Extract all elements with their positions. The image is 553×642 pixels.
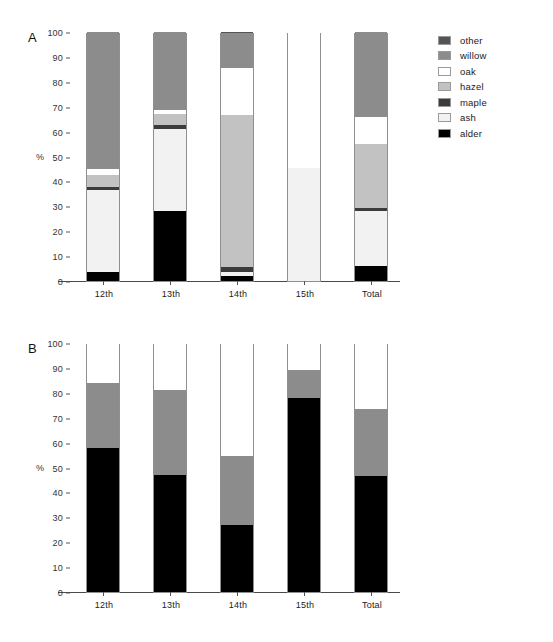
y-tick-label: 80: [53, 78, 72, 88]
y-tick-label: 70: [53, 414, 72, 424]
segment-ash[interactable]: [221, 272, 253, 276]
segment-summer[interactable]: [355, 343, 387, 409]
segment-autumn-winter[interactable]: [87, 448, 119, 592]
segment-oak[interactable]: [87, 169, 119, 175]
bar-13th[interactable]: 13th: [153, 33, 187, 282]
segment-spring[interactable]: [87, 383, 119, 448]
bar-12th[interactable]: 12th: [86, 33, 120, 282]
segment-ash[interactable]: [355, 211, 387, 266]
segment-other[interactable]: [221, 32, 253, 33]
y-tick-mark: [66, 593, 70, 594]
segment-spring[interactable]: [355, 409, 387, 476]
segment-willow[interactable]: [355, 32, 387, 117]
segment-summer[interactable]: [87, 343, 119, 383]
y-tick-label: 90: [53, 364, 72, 374]
bar-15th[interactable]: 15th: [287, 344, 321, 593]
segment-maple[interactable]: [355, 208, 387, 212]
segment-hazel[interactable]: [221, 115, 253, 267]
segment-maple[interactable]: [87, 187, 119, 190]
segment-oak[interactable]: [154, 110, 186, 114]
panel-a-legend: otherwillowoakhazelmapleashalder: [438, 33, 487, 142]
x-tick-mark: [371, 592, 372, 596]
y-tick-label: 60: [53, 128, 72, 138]
bar-segments: [288, 34, 320, 281]
legend-item-label: hazel: [460, 81, 484, 92]
segment-alder[interactable]: [154, 211, 186, 281]
segment-hazel[interactable]: [87, 175, 119, 187]
panel-a-letter: A: [28, 30, 37, 45]
legend-item-label: willow: [460, 50, 487, 61]
legend-item-label: maple: [460, 97, 487, 108]
x-tick-label-13th: 13th: [141, 289, 201, 299]
y-tick-mark: [66, 157, 70, 158]
segment-summer[interactable]: [154, 343, 186, 390]
segment-autumn-winter[interactable]: [355, 476, 387, 592]
segment-alder[interactable]: [87, 272, 119, 281]
panel-a-y-axis-label: %: [36, 152, 44, 162]
segment-oak[interactable]: [221, 68, 253, 115]
panel-b-letter: B: [28, 341, 37, 356]
bar-12th[interactable]: 12th: [86, 344, 120, 593]
bar-15th[interactable]: 15th: [287, 33, 321, 282]
legend-item-willow[interactable]: willow: [438, 49, 487, 63]
segment-spring[interactable]: [154, 390, 186, 475]
segment-willow[interactable]: [221, 33, 253, 68]
segment-ash[interactable]: [87, 190, 119, 272]
x-tick-label-13th: 13th: [141, 600, 201, 610]
y-tick-label: 30: [53, 202, 72, 212]
segment-willow[interactable]: [154, 32, 186, 110]
segment-hazel[interactable]: [154, 114, 186, 125]
legend-swatch-icon: [438, 67, 451, 76]
y-tick-mark: [66, 282, 70, 283]
y-tick-label: 10: [53, 252, 72, 262]
x-tick-label-14th: 14th: [208, 289, 268, 299]
x-tick-mark: [237, 281, 238, 285]
legend-item-label: other: [460, 35, 483, 46]
bar-14th[interactable]: 14th: [220, 344, 254, 593]
bar-segments: [87, 34, 119, 281]
bar-total[interactable]: Total: [354, 344, 388, 593]
segment-autumn-winter[interactable]: [154, 475, 186, 592]
y-tick-mark: [66, 344, 70, 345]
y-tick-mark: [66, 132, 70, 133]
y-tick-mark: [66, 543, 70, 544]
y-tick-label: 70: [53, 103, 72, 113]
legend-swatch-icon: [438, 51, 451, 60]
y-tick-label: 50: [53, 153, 72, 163]
segment-hazel[interactable]: [355, 144, 387, 207]
bar-14th[interactable]: 14th: [220, 33, 254, 282]
legend-item-oak[interactable]: oak: [438, 64, 487, 78]
segment-willow[interactable]: [87, 32, 119, 169]
bar-segments: [221, 34, 253, 281]
segment-autumn-winter[interactable]: [221, 525, 253, 592]
bar-segments: [154, 34, 186, 281]
segment-ash[interactable]: [154, 129, 186, 211]
y-tick-label: 20: [53, 538, 72, 548]
segment-maple[interactable]: [221, 267, 253, 272]
x-tick-mark: [170, 281, 171, 285]
y-tick-mark: [66, 568, 70, 569]
bar-segments: [355, 345, 387, 592]
legend-item-hazel[interactable]: hazel: [438, 80, 487, 94]
y-tick-label: 60: [53, 439, 72, 449]
segment-oak[interactable]: [288, 32, 320, 168]
panel-a-plot-area: 0102030405060708090100 12th13th14th15thT…: [72, 33, 400, 282]
bar-total[interactable]: Total: [354, 33, 388, 282]
segment-autumn-winter[interactable]: [288, 398, 320, 592]
legend-item-other[interactable]: other: [438, 33, 487, 47]
legend-item-alder[interactable]: alder: [438, 126, 487, 140]
segment-spring[interactable]: [288, 370, 320, 397]
bar-13th[interactable]: 13th: [153, 344, 187, 593]
segment-maple[interactable]: [154, 125, 186, 129]
x-tick-label-total: Total: [342, 600, 402, 610]
segment-summer[interactable]: [221, 343, 253, 456]
legend-item-maple[interactable]: maple: [438, 95, 487, 109]
segment-alder[interactable]: [355, 266, 387, 281]
y-tick-mark: [66, 393, 70, 394]
legend-item-ash[interactable]: ash: [438, 111, 487, 125]
segment-ash[interactable]: [288, 168, 320, 281]
y-tick-mark: [66, 33, 70, 34]
segment-spring[interactable]: [221, 456, 253, 524]
segment-oak[interactable]: [355, 117, 387, 144]
segment-summer[interactable]: [288, 343, 320, 370]
